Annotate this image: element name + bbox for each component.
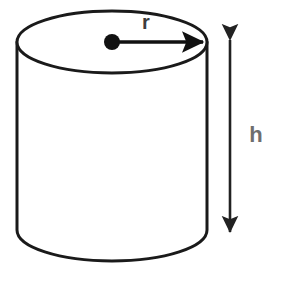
cylinder-body [17,42,207,261]
center-point-dot [104,34,120,50]
diagram-canvas: r h [0,0,281,281]
height-label: h [249,122,262,147]
radius-label: r [142,11,150,33]
cylinder-diagram: r h [0,0,281,281]
